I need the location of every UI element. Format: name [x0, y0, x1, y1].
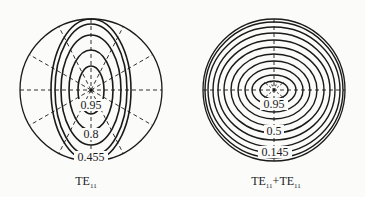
- te11-plus-te11-pattern: [203, 19, 345, 161]
- diagram-canvas: 0.95 0.8 0.455 TE11: [0, 0, 365, 197]
- contour-label-08: 0.8: [84, 127, 99, 141]
- caption-te11-plus-te11: TE11+TE11: [251, 174, 301, 190]
- contour-label-095: 0.95: [81, 98, 102, 112]
- contour-label-0455: 0.455: [78, 150, 105, 164]
- caption-te11: TE11: [75, 174, 97, 190]
- contour-label-05: 0.5: [267, 124, 282, 138]
- center-dot: [272, 88, 275, 91]
- contour-label-095: 0.95: [264, 97, 285, 111]
- contour-label-0145: 0.145: [262, 145, 289, 159]
- center-dot: [89, 88, 92, 91]
